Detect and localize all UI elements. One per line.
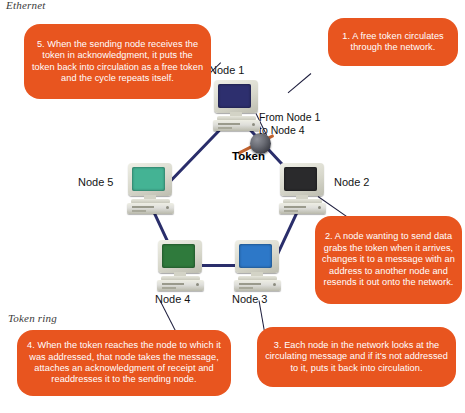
callout-step-1-text: 1. A free token circulates through the n… bbox=[335, 31, 451, 54]
callout-step-3-text: 3. Each node in the network looks at the… bbox=[264, 340, 449, 374]
callout-step-5: 5. When the sending node receives the to… bbox=[24, 24, 211, 99]
node-4-drive-slot-2 bbox=[162, 287, 176, 289]
node-2-drive-slot bbox=[284, 206, 306, 208]
node-5-drive-slot-2 bbox=[132, 210, 146, 212]
node-2-monitor bbox=[280, 163, 324, 196]
token-label: Token bbox=[232, 150, 265, 162]
node-2-drive-slot-2 bbox=[284, 210, 298, 212]
node-2-screen bbox=[284, 167, 317, 191]
callout-step-2: 2. A node wanting to send data grabs the… bbox=[315, 216, 462, 304]
node-3-power-led bbox=[273, 283, 276, 286]
node-1-power-led bbox=[252, 123, 255, 126]
callout-step-1: 1. A free token circulates through the n… bbox=[328, 18, 458, 66]
node-5-screen bbox=[132, 167, 165, 191]
callout-step-4-text: 4. When the token reaches the node to wh… bbox=[24, 340, 224, 386]
section-label-ethernet: Ethernet bbox=[6, 0, 45, 11]
transfer-direction-note: From Node 1 to Node 4 bbox=[259, 111, 320, 136]
node-5-tower bbox=[127, 203, 174, 214]
node-3-drive-slot-2 bbox=[239, 287, 253, 289]
callout-step-3: 3. Each node in the network looks at the… bbox=[257, 327, 456, 387]
node-1[interactable] bbox=[211, 80, 263, 130]
node-3-drive-slot bbox=[239, 283, 261, 285]
node-2-power-led bbox=[318, 206, 321, 209]
node-4-monitor bbox=[158, 240, 202, 273]
node-4-tower bbox=[157, 280, 204, 291]
node-2-tower bbox=[279, 203, 326, 214]
node-2[interactable] bbox=[277, 163, 329, 213]
node-3[interactable] bbox=[232, 240, 284, 290]
callout-step-4: 4. When the token reaches the node to wh… bbox=[17, 330, 231, 396]
node-3-screen bbox=[239, 244, 272, 268]
node-2-label: Node 2 bbox=[334, 176, 369, 188]
node-3-tower bbox=[234, 280, 281, 291]
node-5-monitor bbox=[128, 163, 172, 196]
callout-1-pointer bbox=[288, 73, 312, 93]
node-1-drive-slot bbox=[218, 123, 240, 125]
node-1-screen bbox=[218, 84, 251, 108]
node-4-power-led bbox=[196, 283, 199, 286]
transfer-line-1: From Node 1 bbox=[259, 111, 320, 124]
node-3-monitor bbox=[235, 240, 279, 273]
node-5-drive-slot bbox=[132, 206, 154, 208]
node-4[interactable] bbox=[155, 240, 207, 290]
node-1-drive-slot-2 bbox=[218, 127, 232, 129]
node-1-monitor bbox=[214, 80, 258, 113]
callout-step-5-text: 5. When the sending node receives the to… bbox=[31, 39, 204, 85]
section-label-token-ring: Token ring bbox=[8, 312, 57, 324]
node-3-label: Node 3 bbox=[232, 293, 267, 305]
transfer-line-2: to Node 4 bbox=[259, 124, 320, 137]
token-ring-diagram: Ethernet Token ring Token From Node 1 to… bbox=[0, 0, 465, 413]
node-4-drive-slot bbox=[162, 283, 184, 285]
node-1-label: Node 1 bbox=[209, 64, 244, 76]
callout-step-2-text: 2. A node wanting to send data grabs the… bbox=[322, 231, 455, 288]
node-4-screen bbox=[162, 244, 195, 268]
node-5-label: Node 5 bbox=[78, 176, 113, 188]
node-1-tower bbox=[213, 120, 260, 131]
node-5-power-led bbox=[166, 206, 169, 209]
node-5[interactable] bbox=[125, 163, 177, 213]
